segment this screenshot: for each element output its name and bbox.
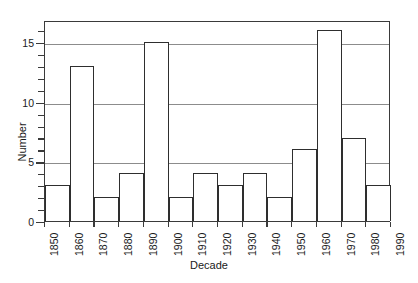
bar-1920: [218, 185, 243, 221]
x-tick-1910: [192, 222, 193, 227]
y-tick-3: [38, 186, 44, 187]
x-tick-1890: [143, 222, 144, 227]
x-tick-1940: [266, 222, 267, 227]
y-tick-12: [38, 79, 44, 80]
x-tick-label-1960: 1960: [320, 233, 332, 256]
y-tick-2: [38, 198, 44, 199]
x-tick-label-1970: 1970: [345, 233, 357, 256]
x-axis: 1850186018701880189019001910192019301940…: [44, 222, 390, 282]
bar-1900: [169, 197, 194, 221]
y-tick-8: [38, 127, 44, 128]
y-tick-14: [38, 55, 44, 56]
bar-1980: [366, 185, 391, 221]
chart-figure: Number 051015 18501860187018801890190019…: [0, 0, 418, 283]
x-tick-label-1910: 1910: [196, 233, 208, 256]
x-tick-label-1950: 1950: [295, 233, 307, 256]
x-tick-label-1870: 1870: [97, 233, 109, 256]
x-tick-1930: [242, 222, 243, 227]
y-tick-15: [36, 43, 44, 44]
x-axis-title: Decade: [0, 259, 418, 271]
x-tick-1860: [69, 222, 70, 227]
x-tick-label-1980: 1980: [369, 233, 381, 256]
y-tick-5: [36, 162, 44, 163]
bar-1880: [119, 173, 144, 221]
x-tick-1980: [365, 222, 366, 227]
bar-1910: [193, 173, 218, 221]
x-tick-1900: [168, 222, 169, 227]
y-tick-label-10: 10: [8, 97, 34, 109]
bar-1850: [45, 185, 70, 221]
plot-area: [44, 21, 390, 222]
y-tick-4: [38, 174, 44, 175]
x-tick-label-1930: 1930: [246, 233, 258, 256]
bars-layer: [45, 22, 389, 221]
y-tick-16: [38, 31, 44, 32]
x-tick-label-1940: 1940: [270, 233, 282, 256]
bar-1940: [267, 197, 292, 221]
x-tick-1920: [217, 222, 218, 227]
y-tick-9: [38, 115, 44, 116]
y-tick-13: [38, 67, 44, 68]
y-tick-6: [38, 150, 44, 151]
bar-1890: [144, 42, 169, 221]
y-tick-1: [38, 210, 44, 211]
x-tick-1970: [341, 222, 342, 227]
x-tick-1960: [316, 222, 317, 227]
x-tick-label-1920: 1920: [221, 233, 233, 256]
bar-1930: [243, 173, 268, 221]
y-tick-0: [36, 222, 44, 223]
x-tick-1950: [291, 222, 292, 227]
x-tick-label-1860: 1860: [73, 233, 85, 256]
y-tick-10: [36, 103, 44, 104]
y-tick-label-15: 15: [8, 37, 34, 49]
x-tick-1880: [118, 222, 119, 227]
bar-1950: [292, 149, 317, 221]
x-tick-1990: [390, 222, 391, 227]
x-tick-label-1850: 1850: [48, 233, 60, 256]
y-tick-label-5: 5: [8, 156, 34, 168]
x-tick-label-1900: 1900: [172, 233, 184, 256]
x-tick-label-1890: 1890: [147, 233, 159, 256]
y-tick-7: [38, 138, 44, 139]
x-tick-label-1880: 1880: [122, 233, 134, 256]
x-tick-label-1990: 1990: [394, 233, 406, 256]
y-axis-title: Number: [16, 122, 28, 161]
y-tick-11: [38, 91, 44, 92]
x-tick-1870: [93, 222, 94, 227]
y-tick-label-0: 0: [8, 216, 34, 228]
bar-1860: [70, 66, 95, 221]
x-tick-1850: [44, 222, 45, 227]
bar-1960: [317, 30, 342, 221]
bar-1970: [342, 138, 367, 222]
bar-1870: [94, 197, 119, 221]
